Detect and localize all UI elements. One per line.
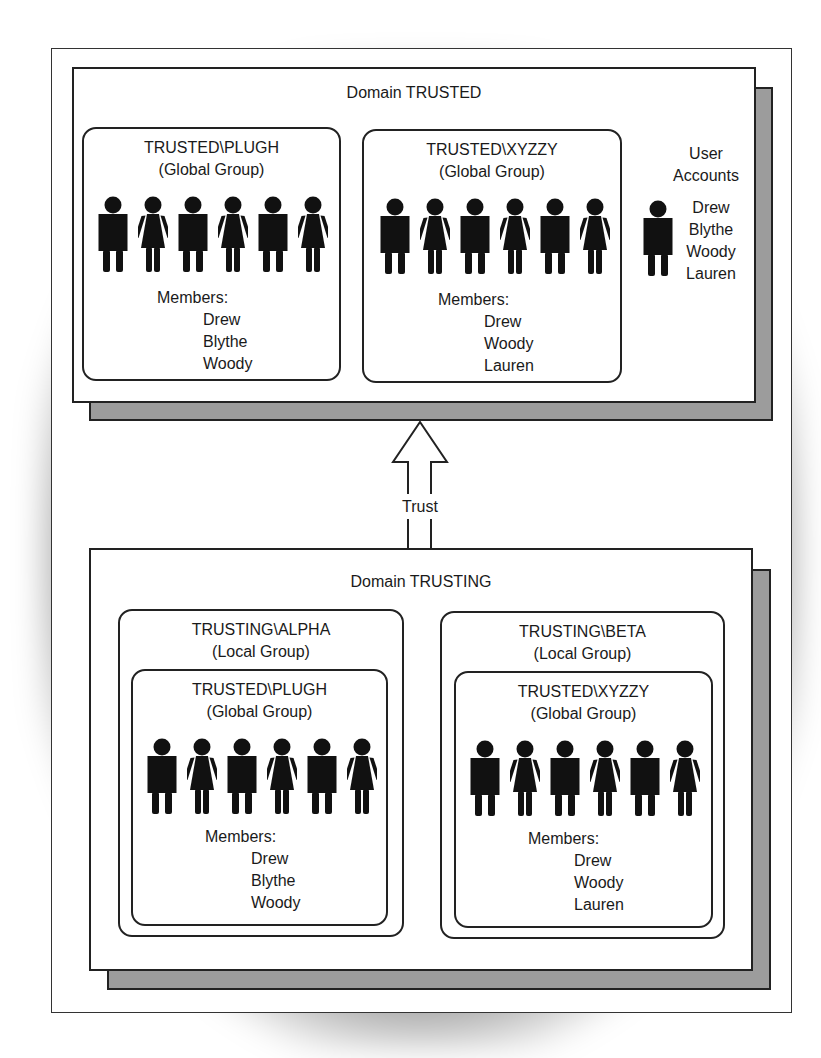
- member-name: Drew: [528, 850, 624, 872]
- female-user-icon: [510, 740, 540, 816]
- male-user-icon: [227, 738, 257, 814]
- members-label: Members:: [205, 826, 301, 848]
- member-name: Lauren: [528, 894, 624, 916]
- local-group-name: TRUSTING\ALPHA: [118, 619, 404, 641]
- member-figures: [470, 740, 700, 816]
- local-group-type: (Local Group): [440, 643, 725, 665]
- male-user-icon: [550, 740, 580, 816]
- member-name: Drew: [205, 848, 301, 870]
- female-user-icon: [267, 738, 297, 814]
- group-name: TRUSTED\XYZZY: [454, 681, 713, 703]
- local-group-type: (Local Group): [118, 641, 404, 663]
- member-name: Blythe: [205, 870, 301, 892]
- female-user-icon: [670, 740, 700, 816]
- male-user-icon: [147, 738, 177, 814]
- male-user-icon: [307, 738, 337, 814]
- group-type: (Global Group): [454, 703, 713, 725]
- members-label: Members:: [528, 828, 624, 850]
- trust-label: Trust: [390, 496, 450, 518]
- female-user-icon: [347, 738, 377, 814]
- female-user-icon: [187, 738, 217, 814]
- local-group-name: TRUSTING\BETA: [440, 621, 725, 643]
- male-user-icon: [630, 740, 660, 816]
- members-list: Members: Drew Woody Lauren: [528, 828, 624, 916]
- group-name: TRUSTED\PLUGH: [131, 679, 388, 701]
- domain-trusting-title: Domain TRUSTING: [89, 571, 753, 593]
- male-user-icon: [470, 740, 500, 816]
- female-user-icon: [590, 740, 620, 816]
- member-figures: [147, 738, 377, 814]
- member-name: Woody: [205, 892, 301, 914]
- members-list: Members: Drew Blythe Woody: [205, 826, 301, 914]
- group-type: (Global Group): [131, 701, 388, 723]
- member-name: Woody: [528, 872, 624, 894]
